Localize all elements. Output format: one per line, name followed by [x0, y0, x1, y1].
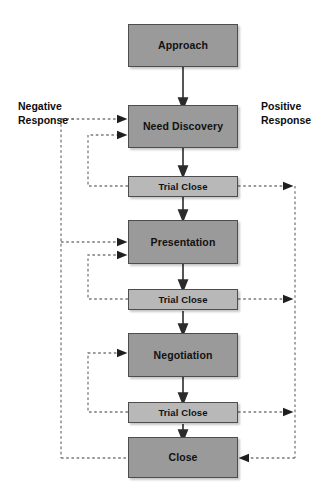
loop-trial1-to-need [88, 135, 128, 186]
node-close[interactable]: Close [128, 437, 238, 478]
negative-bus-feeders [61, 119, 122, 242]
node-trial-close-2[interactable]: Trial Close [128, 289, 238, 310]
flowchart-canvas: Negative Response Positive Response Appr… [0, 0, 333, 501]
negative-response-bus [61, 119, 128, 458]
node-negotiation[interactable]: Negotiation [128, 333, 238, 377]
retry-loops [88, 135, 128, 412]
node-trial-close-1[interactable]: Trial Close [128, 176, 238, 197]
node-need-discovery[interactable]: Need Discovery [128, 105, 238, 148]
node-approach[interactable]: Approach [128, 24, 238, 67]
node-presentation[interactable]: Presentation [128, 220, 238, 264]
node-trial-close-3[interactable]: Trial Close [128, 402, 238, 423]
negative-response-label: Negative Response [18, 99, 86, 127]
loop-trial3-to-negotiation [88, 353, 128, 412]
loop-trial2-to-presentation [88, 255, 128, 299]
positive-bus-feeders [238, 186, 295, 458]
positive-response-label: Positive Response [261, 99, 331, 127]
